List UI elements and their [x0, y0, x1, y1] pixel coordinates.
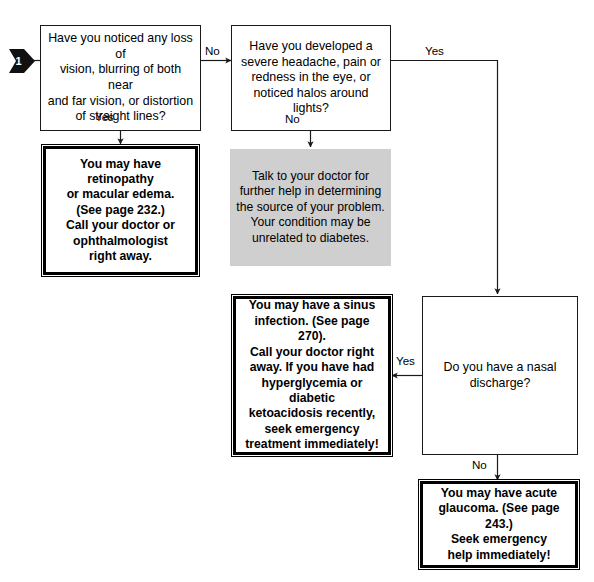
edge-label-q1-no: No [205, 45, 220, 57]
edge-label-q3-yes: Yes [396, 355, 415, 367]
question-box-nasal-discharge-text: Do you have a nasal discharge? [423, 360, 577, 391]
edge-label-q2-yes: Yes [425, 45, 444, 57]
flowchart-canvas: 1 Have you noticed any loss of vision, b… [0, 0, 594, 582]
edge-q2-to-q3 [390, 61, 498, 295]
advice-panel-unrelated-to-diabetes[interactable]: Talk to your doctor for further help in … [230, 149, 391, 266]
advice-box-retinopathy-text: You may have retinopathy or macular edem… [46, 157, 195, 265]
start-arrow-marker: 1 [6, 48, 36, 74]
advice-panel-unrelated-to-diabetes-text: Talk to your doctor for further help in … [230, 169, 391, 247]
question-box-vision-loss[interactable]: Have you noticed any loss of vision, blu… [40, 25, 201, 131]
edge-label-q3-no: No [472, 459, 487, 471]
question-box-headache[interactable]: Have you developed a severe headache, pa… [231, 25, 391, 131]
question-box-headache-text: Have you developed a severe headache, pa… [232, 39, 390, 117]
advice-box-sinus-infection-text: You may have a sinus infection. (See pag… [236, 298, 388, 452]
advice-box-sinus-infection[interactable]: You may have a sinus infection. (See pag… [233, 296, 391, 455]
question-box-vision-loss-text: Have you noticed any loss of vision, blu… [41, 31, 200, 125]
advice-box-acute-glaucoma-text: You may have acute glaucoma. (See page 2… [423, 486, 575, 563]
edge-label-q1-yes: Yes [95, 111, 114, 123]
edge-label-q2-no: No [285, 113, 300, 125]
start-marker-number: 1 [6, 48, 36, 74]
advice-box-retinopathy[interactable]: You may have retinopathy or macular edem… [43, 146, 198, 275]
advice-box-acute-glaucoma[interactable]: You may have acute glaucoma. (See page 2… [420, 481, 578, 568]
question-box-nasal-discharge[interactable]: Do you have a nasal discharge? [422, 296, 578, 455]
